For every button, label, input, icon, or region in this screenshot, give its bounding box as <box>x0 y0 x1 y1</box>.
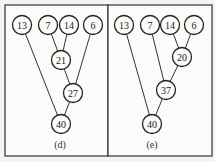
node-label: 7 <box>46 20 51 31</box>
tree-node-7: 7 <box>141 16 160 35</box>
tree-node-20: 20 <box>173 48 192 67</box>
node-label: 7 <box>148 20 153 31</box>
node-label: 20 <box>177 52 187 63</box>
node-label: 6 <box>192 20 197 31</box>
tree-node-40: 40 <box>143 115 162 134</box>
tree-node-27: 27 <box>64 84 83 103</box>
huffman-tree-diagrams: 137146212740137146203740 (d) (e) <box>0 0 215 162</box>
tree-node-13: 13 <box>13 16 32 35</box>
tree-node-21: 21 <box>52 51 71 70</box>
node-label: 13 <box>119 20 129 31</box>
tree-node-37: 37 <box>157 81 176 100</box>
tree-node-14: 14 <box>60 16 79 35</box>
tree-node-40: 40 <box>52 115 71 134</box>
node-label: 21 <box>56 55 66 66</box>
node-label: 40 <box>147 119 157 130</box>
tree-node-6: 6 <box>84 16 103 35</box>
caption-d: (d) <box>54 139 66 151</box>
node-label: 13 <box>17 20 27 31</box>
tree-node-14: 14 <box>161 16 180 35</box>
node-label: 14 <box>64 20 74 31</box>
node-label: 27 <box>68 88 78 99</box>
tree-node-13: 13 <box>115 16 134 35</box>
node-label: 14 <box>165 20 175 31</box>
node-label: 40 <box>56 119 66 130</box>
tree-node-7: 7 <box>39 16 58 35</box>
caption-e: (e) <box>146 139 157 151</box>
node-label: 37 <box>161 85 171 96</box>
node-label: 6 <box>91 20 96 31</box>
tree-node-6: 6 <box>185 16 204 35</box>
